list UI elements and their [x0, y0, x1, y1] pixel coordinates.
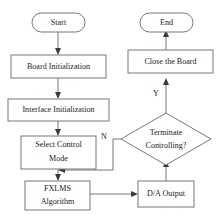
node-board-init-label: Board Initialization — [27, 62, 90, 71]
arrowhead-interface-init-to-select-mode — [55, 129, 61, 136]
flowchart-svg: Start End Board Initialization Interface… — [0, 0, 219, 214]
node-select-mode-label-line2: Mode — [49, 154, 68, 163]
node-da-output-label: D/A Output — [147, 189, 186, 198]
node-close-board-label: Close the Board — [144, 57, 196, 66]
arrowhead-fxlms-to-da-output — [131, 191, 138, 197]
node-fxlms-label-line2: Algorithm — [41, 197, 75, 206]
edge-label-yes: Y — [153, 89, 159, 98]
node-terminate-decision-label-line2: Controlling? — [146, 141, 187, 150]
node-terminate-decision-label-line1: Terminate — [150, 128, 183, 137]
arrowhead-yes-branch — [163, 78, 169, 85]
arrowhead-start-to-board-init — [55, 48, 61, 55]
edge-label-no: N — [101, 132, 107, 141]
arrowhead-board-init-to-interface-init — [55, 92, 61, 99]
node-select-mode-label-line1: Select Control — [35, 140, 82, 149]
node-terminate-decision-shape[interactable] — [121, 113, 211, 165]
node-start-label: Start — [51, 18, 67, 27]
node-fxlms-label-line1: FXLMS — [44, 184, 71, 193]
node-interface-init-label: Interface Initialization — [22, 105, 94, 114]
arrowhead-junction-to-fxlms — [55, 174, 61, 181]
flowchart-canvas: Start End Board Initialization Interface… — [0, 0, 219, 214]
node-end-label: End — [160, 18, 173, 27]
